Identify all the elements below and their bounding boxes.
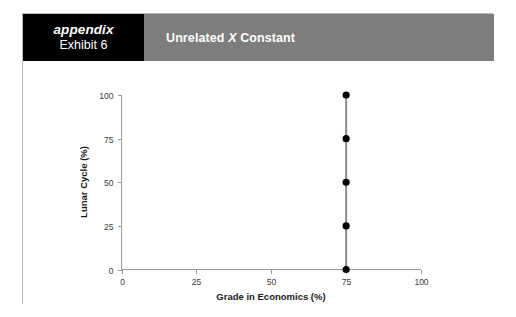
y-tick-label: 50 — [104, 178, 114, 188]
exhibit-title: Unrelated X Constant — [166, 31, 295, 45]
x-axis-title: Grade in Economics (%) — [216, 291, 325, 302]
x-tick-label: 50 — [267, 277, 277, 287]
appendix-label: appendix — [53, 22, 113, 37]
y-tick-label: 0 — [109, 266, 114, 276]
scatter-chart: 0255075100 0255075100 Lunar Cycle (%) Gr… — [23, 61, 494, 304]
x-tick-label: 0 — [120, 277, 125, 287]
data-point — [343, 91, 350, 98]
exhibit-number-label: Exhibit 6 — [60, 38, 108, 52]
exhibit-header: appendix Exhibit 6 Unrelated X Constant — [23, 14, 494, 61]
chart-plot-area: 0255075100 0255075100 Lunar Cycle (%) Gr… — [23, 61, 494, 304]
y-tick-label: 25 — [104, 222, 114, 232]
data-series — [343, 91, 350, 273]
y-axis-title: Lunar Cycle (%) — [78, 146, 89, 218]
title-prefix: Unrelated — [166, 31, 228, 45]
appendix-block: appendix Exhibit 6 — [23, 14, 144, 61]
x-tick-label: 25 — [192, 277, 202, 287]
exhibit-card: appendix Exhibit 6 Unrelated X Constant … — [22, 13, 493, 304]
data-point — [343, 179, 350, 186]
header-title-band: Unrelated X Constant — [144, 14, 494, 61]
data-point — [343, 222, 350, 229]
title-suffix: Constant — [237, 31, 296, 45]
title-variable: X — [228, 31, 236, 45]
x-axis-ticks: 0255075100 — [120, 270, 429, 287]
data-point — [343, 266, 350, 273]
x-tick-label: 100 — [414, 277, 428, 287]
x-tick-label: 75 — [342, 277, 352, 287]
y-tick-label: 75 — [104, 135, 114, 145]
data-point — [343, 135, 350, 142]
y-tick-label: 100 — [99, 91, 113, 101]
y-axis-ticks: 0255075100 — [99, 91, 121, 276]
